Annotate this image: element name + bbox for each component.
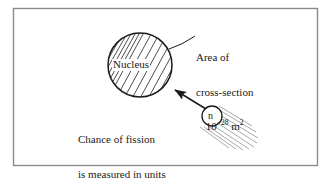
annotation-line-cross-section: cross-section [196, 87, 253, 99]
annotation-value: 10−28 m2 [196, 121, 253, 133]
note-line-1: Chance of fission [78, 134, 180, 146]
annotation-line-area: Area of [196, 52, 253, 64]
fission-note: Chance of fission is measured in units o… [78, 111, 180, 179]
figure-container: Nucleus n Area of cross-section 10−28 m2… [0, 0, 331, 179]
cross-section-annotation: Area of cross-section 10−28 m2 [196, 29, 253, 156]
note-line-2: is measured in units [78, 169, 180, 180]
cross-section-leader-line [169, 36, 195, 49]
annotation-value-unit: m [231, 120, 240, 132]
annotation-value-exponent: −28 [217, 118, 229, 127]
nucleus-label: Nucleus [112, 59, 150, 71]
annotation-unit-exponent: 2 [240, 118, 244, 127]
annotation-value-base: 10 [206, 120, 217, 132]
